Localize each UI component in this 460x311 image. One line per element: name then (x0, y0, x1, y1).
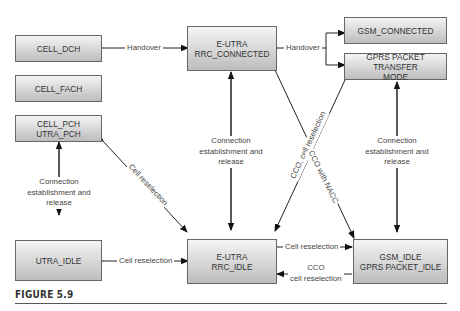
state-label: E-UTRA (217, 252, 248, 262)
state-label: GSM_CONNECTED (357, 26, 433, 36)
label-line: establishment and (18, 188, 100, 199)
connection-label-middle: Connection establishment and release (190, 136, 272, 168)
label-line: Connection (190, 136, 272, 147)
label-line: release (356, 157, 438, 168)
label-line: CCO (290, 263, 342, 274)
state-label: RRC_CONNECTED (194, 49, 269, 59)
label-line: release (18, 198, 100, 209)
state-label: GPRS PACKET TRANSFER (345, 52, 446, 72)
state-label: GSM_IDLE (380, 252, 422, 262)
state-label: RRC_IDLE (211, 262, 252, 272)
state-eutra-rrc-idle: E-UTRA RRC_IDLE (187, 239, 277, 284)
state-cell-fach: CELL_FACH (15, 75, 102, 102)
state-label: E-UTRA (217, 39, 248, 49)
state-label: CELL_DCH (37, 44, 80, 54)
caption-rule (15, 303, 447, 304)
cell-reselection-bottom-left-label: Cell reselection (117, 256, 174, 267)
state-label: MODE (383, 72, 408, 82)
label-line: Connection (356, 136, 438, 147)
label-line: Connection (18, 177, 100, 188)
connection-label-left: Connection establishment and release (18, 177, 100, 209)
connection-label-right: Connection establishment and release (356, 136, 438, 168)
state-label: UTRA_IDLE (36, 256, 82, 266)
label-line: cell reselection (290, 274, 342, 285)
state-gsm-idle: GSM_IDLE GPRS PACKET_IDLE (353, 239, 448, 284)
label-line: establishment and (356, 147, 438, 158)
label-line: establishment and (190, 147, 272, 158)
cell-reselection-bottom-right-label: Cell reselection (283, 242, 340, 253)
state-cell-pch: CELL_PCH UTRA_PCH (15, 115, 102, 142)
handover-label-left: Handover (125, 43, 163, 54)
state-label: CELL_PCH (37, 119, 80, 129)
state-eutra-rrc-connected: E-UTRA RRC_CONNECTED (187, 26, 277, 71)
handover-label-right: Handover (284, 43, 322, 54)
state-label: GPRS PACKET_IDLE (360, 262, 441, 272)
state-gsm-connected: GSM_CONNECTED (344, 17, 447, 44)
label-line: release (190, 157, 272, 168)
cco-cell-reselection-bottom-label: CCO cell reselection (288, 263, 344, 284)
state-utra-idle: UTRA_IDLE (15, 240, 102, 281)
figure-caption: FIGURE 5.9 (15, 288, 73, 300)
state-label: CELL_FACH (35, 84, 83, 94)
state-cell-dch: CELL_DCH (15, 35, 102, 62)
state-label: UTRA_PCH (36, 129, 81, 139)
state-gprs-packet-transfer: GPRS PACKET TRANSFER MODE (344, 53, 447, 80)
